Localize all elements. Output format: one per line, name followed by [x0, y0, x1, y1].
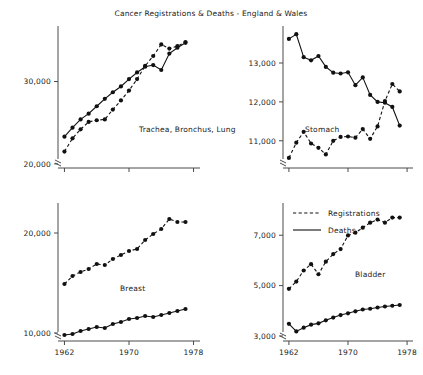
x-tick-label: 1978 [397, 348, 417, 357]
data-point [346, 311, 350, 315]
series-line-deaths [64, 43, 185, 137]
data-point [103, 97, 107, 101]
data-point [167, 46, 171, 50]
data-point [368, 221, 372, 225]
data-point [375, 100, 379, 104]
x-tick-label: 1962 [55, 348, 75, 357]
data-point [324, 318, 328, 322]
data-point [111, 322, 115, 326]
data-point [127, 88, 131, 92]
data-point [183, 220, 187, 224]
data-point [331, 315, 335, 319]
panel-label: Bladder [355, 270, 386, 279]
data-point [87, 120, 91, 124]
data-point [294, 329, 298, 333]
y-tick-label: 30,000 [24, 77, 51, 86]
x-tick-label: 1970 [338, 348, 358, 357]
data-point [361, 75, 365, 79]
series-line-deaths [289, 34, 400, 125]
data-point [127, 317, 131, 321]
data-point [78, 270, 82, 274]
data-point [111, 257, 115, 261]
x-tick-label: 1962 [279, 348, 299, 357]
data-point [383, 221, 387, 225]
data-point [143, 238, 147, 242]
data-point [375, 124, 379, 128]
data-point [398, 89, 402, 93]
data-point [143, 65, 147, 69]
data-point [159, 42, 163, 46]
y-tick-label: 10,000 [24, 329, 51, 338]
data-point [111, 90, 115, 94]
data-point [398, 303, 402, 307]
y-tick-label: 7,000 [254, 231, 276, 240]
legend-label-registrations: Registrations [328, 209, 380, 218]
data-point [167, 311, 171, 315]
data-point [287, 37, 291, 41]
y-tick-label: 3,000 [254, 332, 276, 341]
data-point [316, 321, 320, 325]
data-point [339, 247, 343, 251]
data-point [316, 272, 320, 276]
axis-break-mark [55, 336, 61, 339]
data-point [78, 127, 82, 131]
data-point [339, 135, 343, 139]
data-point [339, 71, 343, 75]
data-point [368, 137, 372, 141]
data-point [353, 83, 357, 87]
axis-break-mark [280, 160, 286, 163]
data-point [119, 320, 123, 324]
data-point [62, 135, 66, 139]
data-point [375, 218, 379, 222]
data-point [103, 326, 107, 330]
data-point [353, 309, 357, 313]
data-point [135, 70, 139, 74]
data-point [62, 333, 66, 337]
data-point [390, 215, 394, 219]
y-tick-label: 20,000 [24, 160, 51, 169]
x-tick-label: 1978 [184, 348, 204, 357]
data-point [151, 63, 155, 67]
panel-label: Stomach [305, 125, 340, 134]
data-point [324, 260, 328, 264]
data-point [135, 316, 139, 320]
data-point [294, 32, 298, 36]
data-point [390, 304, 394, 308]
data-point [183, 41, 187, 45]
data-point [331, 139, 335, 143]
data-point [309, 262, 313, 266]
panel-label: Trachea, Bronchus, Lung [138, 125, 236, 134]
data-point [87, 112, 91, 116]
data-point [87, 327, 91, 331]
data-point [331, 71, 335, 75]
data-point [309, 323, 313, 327]
axis-break-mark [280, 163, 286, 166]
data-point [383, 101, 387, 105]
data-point [95, 104, 99, 108]
data-point [175, 220, 179, 224]
chart-title: Cancer Registrations & Deaths - England … [115, 9, 308, 18]
data-point [167, 217, 171, 221]
data-point [361, 127, 365, 131]
panel-label: Breast [120, 284, 145, 293]
y-tick-label: 5,000 [254, 281, 276, 290]
data-point [103, 263, 107, 267]
y-tick-label: 20,000 [24, 229, 51, 238]
data-point [95, 262, 99, 266]
data-point [383, 304, 387, 308]
y-tick-label: 12,000 [249, 98, 276, 107]
panels-container: 20,00030,000Trachea, Bronchus, Lung11,00… [24, 26, 418, 357]
data-point [368, 307, 372, 311]
data-point [119, 253, 123, 257]
data-point [135, 77, 139, 81]
data-point [111, 107, 115, 111]
data-point [309, 141, 313, 145]
data-point [70, 136, 74, 140]
data-point [62, 149, 66, 153]
data-point [287, 287, 291, 291]
data-point [302, 55, 306, 59]
data-point [368, 93, 372, 97]
axis-break-mark [55, 160, 61, 163]
data-point [151, 232, 155, 236]
data-point [346, 134, 350, 138]
